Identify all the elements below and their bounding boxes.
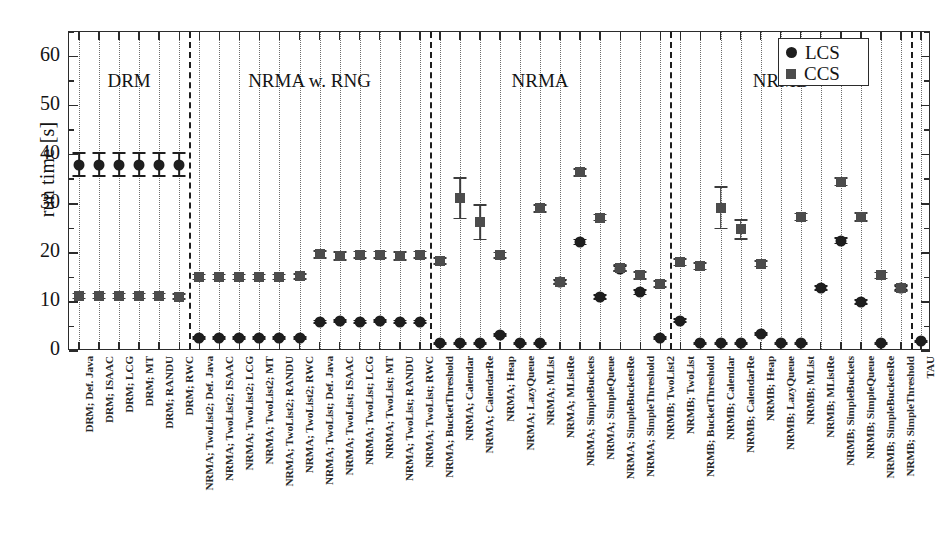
y-major-tick (921, 203, 930, 205)
x-tick-label: DRM; LCG (123, 356, 135, 413)
data-point-ccs (695, 261, 705, 271)
x-tick-label: NRMB; Calendar (724, 356, 736, 440)
data-point-ccs (134, 291, 144, 301)
x-tick-top (359, 32, 361, 40)
gridline (700, 32, 701, 349)
data-point-ccs (174, 292, 184, 302)
x-tick-label: NRMA; TwoList2; ISAAC (223, 356, 235, 481)
x-tick (599, 342, 601, 350)
data-point-lcs (474, 338, 485, 349)
gridline (480, 32, 481, 349)
x-tick (138, 342, 140, 350)
y-minor-tick (924, 129, 930, 131)
group-separator (670, 32, 672, 349)
error-bar-cap (153, 175, 166, 177)
x-tick-top (539, 32, 541, 40)
x-tick (359, 342, 361, 350)
y-tick-label: 50 (26, 93, 60, 113)
error-bar-cap (113, 152, 126, 154)
data-point-lcs (775, 338, 786, 349)
x-tick-label: NRMA; TwoList; RANDU (403, 356, 415, 481)
x-tick-label: NRMA; TwoList2; Def. Java (203, 356, 215, 490)
data-point-lcs (495, 329, 506, 340)
data-point-lcs (74, 159, 85, 170)
x-tick-top (680, 32, 682, 40)
x-tick-top (620, 32, 622, 40)
group-separator (189, 32, 191, 349)
gridline (159, 32, 160, 349)
x-tick (118, 342, 120, 350)
x-tick-top (239, 32, 241, 40)
data-point-ccs (495, 250, 505, 260)
data-point-ccs (375, 250, 385, 260)
data-point-lcs (134, 159, 145, 170)
x-tick-label: NRMA; Heap (504, 356, 516, 422)
x-tick-label: NRMB; TwoList (684, 356, 696, 434)
gridline (79, 32, 80, 349)
error-bar-cap (73, 152, 86, 154)
data-point-ccs (94, 291, 104, 301)
x-tick-top (720, 32, 722, 40)
x-tick (339, 342, 341, 350)
data-point-lcs (294, 333, 305, 344)
data-point-ccs (655, 279, 665, 289)
gridline (380, 32, 381, 349)
x-tick-label: NRMA; TwoList2; MT (263, 356, 275, 464)
y-major-tick (921, 252, 930, 254)
x-tick (640, 342, 642, 350)
gridline (440, 32, 441, 349)
data-point-ccs (455, 193, 465, 203)
x-tick-label: NRMB; MList (804, 356, 816, 425)
x-tick (399, 342, 401, 350)
data-point-ccs (876, 270, 886, 280)
y-major-tick (69, 301, 78, 303)
x-tick-top (118, 32, 120, 40)
data-point-ccs (836, 177, 846, 187)
y-tick-label: 10 (26, 289, 60, 309)
x-tick-top (439, 32, 441, 40)
x-tick-top (479, 32, 481, 40)
gridline (580, 32, 581, 349)
data-point-lcs (755, 328, 766, 339)
y-tick-label: 0 (26, 338, 60, 358)
error-bar-cap (734, 238, 747, 240)
x-tick-top (399, 32, 401, 40)
data-point-ccs (355, 250, 365, 260)
data-point-ccs (194, 272, 204, 282)
y-major-tick (921, 301, 930, 303)
x-tick (620, 342, 622, 350)
data-point-ccs (595, 213, 605, 223)
data-point-ccs (856, 212, 866, 222)
x-tick-label: NRMA; LazyQueue (524, 356, 536, 451)
x-tick (179, 342, 181, 350)
x-tick-top (700, 32, 702, 40)
data-point-ccs (395, 251, 405, 261)
x-tick (419, 342, 421, 350)
gridline (640, 32, 641, 349)
error-bar-cap (473, 239, 486, 241)
x-tick (900, 342, 902, 350)
x-tick (680, 342, 682, 350)
x-tick (860, 342, 862, 350)
y-major-tick (69, 154, 78, 156)
data-point-lcs (334, 316, 345, 327)
x-tick-label: NRMA; MList (544, 356, 556, 425)
gridline (881, 32, 882, 349)
gridline (199, 32, 200, 349)
x-tick (379, 342, 381, 350)
error-bar-cap (734, 219, 747, 221)
y-minor-tick (924, 326, 930, 328)
y-minor-tick (69, 31, 75, 33)
data-point-lcs (214, 333, 225, 344)
data-point-lcs (274, 333, 285, 344)
data-point-lcs (655, 332, 666, 343)
y-major-tick (921, 56, 930, 58)
data-point-lcs (735, 338, 746, 349)
data-point-lcs (815, 282, 826, 293)
x-tick-top (880, 32, 882, 40)
data-point-ccs (575, 167, 585, 177)
x-tick-label: NRMB; LazyQueue (784, 356, 796, 450)
x-tick-top (339, 32, 341, 40)
group-title: NRMA w. RNG (248, 70, 371, 92)
data-point-ccs (315, 249, 325, 259)
